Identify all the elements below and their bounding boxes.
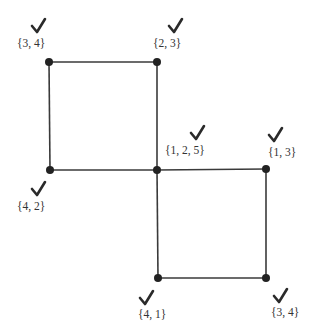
checkmark-icon (32, 19, 45, 32)
node-ml (46, 166, 54, 174)
node-label: {1, 2, 5} (165, 144, 205, 157)
node-c (153, 166, 161, 174)
checkmark-icon (191, 126, 204, 139)
node-br (262, 274, 270, 282)
node-label: {4, 1} (138, 308, 166, 321)
node-r (262, 165, 270, 173)
node-label: {4, 2} (17, 200, 45, 213)
edge-c-bl (157, 170, 158, 278)
checkmark-icon (269, 128, 282, 141)
node-label: {2, 3} (153, 37, 181, 50)
edge-tl-ml (49, 62, 50, 170)
checkmark-icon (169, 19, 182, 32)
graph-diagram: {3, 4}{2, 3}{4, 2}{1, 2, 5}{1, 3}{4, 1}{… (0, 0, 313, 335)
checkmark-icon (274, 289, 287, 302)
node-bl (154, 274, 162, 282)
node-label: {3, 4} (271, 306, 299, 319)
node-tl (45, 58, 53, 66)
checkmark-icon (32, 182, 45, 195)
checkmark-icon (140, 291, 153, 304)
node-tr (153, 58, 161, 66)
node-label: {3, 4} (17, 37, 45, 50)
node-label: {1, 3} (268, 146, 296, 159)
edge-c-r (157, 169, 266, 170)
